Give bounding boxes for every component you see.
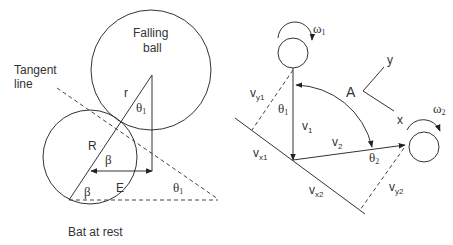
R-label: R <box>88 139 97 153</box>
v2-arrow <box>293 145 405 160</box>
vy1-label: vy1 <box>250 86 265 102</box>
omega2-rotation-arrow <box>407 120 440 131</box>
surface-line <box>235 118 365 214</box>
r-label: r <box>124 86 128 100</box>
beta-lower-label: β <box>84 184 91 199</box>
vx1-label: vx1 <box>253 146 268 162</box>
angle-A-label: A <box>346 84 356 100</box>
y-axis-label: y <box>387 53 393 67</box>
omega1-label: ω1 <box>313 21 326 37</box>
left-diagram: Fallingball Tangentline Bat at rest r R … <box>14 10 218 239</box>
beta-upper-label: β <box>105 152 112 167</box>
x-axis <box>363 91 394 111</box>
vx2-label: vx2 <box>309 183 324 199</box>
falling-ball-label: Fallingball <box>133 26 168 55</box>
vy2-label: vy2 <box>389 180 404 196</box>
y-axis <box>363 67 384 91</box>
center-line <box>69 75 152 200</box>
theta1-label: θ1 <box>278 101 288 117</box>
theta2-label: θ2 <box>369 150 379 166</box>
omega1-rotation-arrow <box>278 22 312 40</box>
ball1-circle <box>278 38 308 68</box>
theta1-ball-label: θ1 <box>136 100 146 116</box>
x-axis-label: x <box>397 113 403 127</box>
v1-label: v1 <box>302 119 313 135</box>
bat-at-rest-label: Bat at rest <box>68 225 123 239</box>
v2-label: v2 <box>332 135 343 151</box>
E-label: E <box>116 181 124 195</box>
collision-diagram: Fallingball Tangentline Bat at rest r R … <box>0 0 453 245</box>
omega2-label: ω2 <box>433 101 446 117</box>
right-diagram: y x A ω1 ω2 θ1 θ2 v1 v2 vy1 vx1 vx2 vy2 <box>235 21 446 214</box>
tangent-line-label: Tangentline <box>14 63 57 91</box>
vy2-dashed <box>360 148 404 210</box>
theta1-tangent-label: θ1 <box>173 180 183 196</box>
ball2-circle <box>409 132 439 162</box>
